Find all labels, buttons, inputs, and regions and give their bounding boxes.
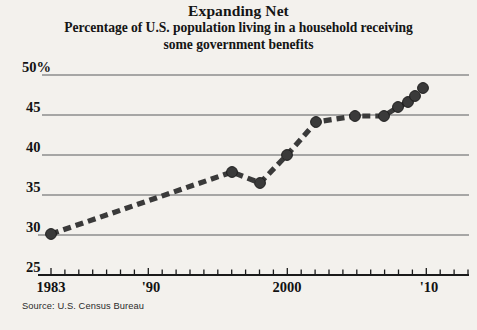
x-axis-labels: 1983 '90 2000 '10	[37, 279, 439, 295]
source-note: Source: U.S. Census Bureau	[22, 301, 144, 311]
data-point	[418, 83, 429, 94]
y-tick-label-50: 50%	[22, 59, 51, 75]
chart-svg: 50% 45 40 35 30 25 1983 '90 2000 '10	[0, 0, 477, 330]
chart-plot-area: 50% 45 40 35 30 25 1983 '90 2000 '10	[0, 0, 477, 330]
data-point	[393, 102, 404, 113]
x-tick-label-2010: '10	[420, 279, 439, 295]
x-axis-ticks	[51, 268, 468, 275]
x-tick-label-2000: 2000	[273, 279, 302, 295]
data-point	[255, 178, 266, 189]
y-tick-label-30: 30	[26, 219, 41, 235]
data-series-line	[51, 88, 423, 234]
x-tick-label-1990: '90	[142, 279, 161, 295]
data-point	[410, 91, 421, 102]
data-point	[227, 167, 238, 178]
data-point	[311, 117, 322, 128]
data-point	[46, 229, 57, 240]
data-point	[282, 150, 293, 161]
y-tick-label-40: 40	[26, 139, 41, 155]
data-point	[350, 111, 361, 122]
y-tick-label-45: 45	[26, 99, 41, 115]
y-axis-labels: 50% 45 40 35 30 25	[22, 59, 51, 275]
y-tick-label-35: 35	[26, 179, 41, 195]
x-tick-label-1983: 1983	[37, 279, 66, 295]
y-tick-label-25: 25	[26, 259, 41, 275]
data-point	[379, 111, 390, 122]
chart-root: Expanding Net Percentage of U.S. populat…	[0, 0, 477, 330]
